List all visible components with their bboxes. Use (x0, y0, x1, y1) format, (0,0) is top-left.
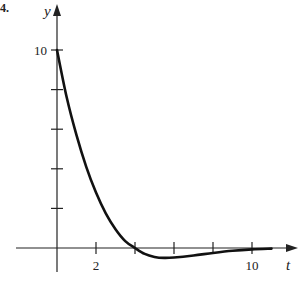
y-tick-labels: 10 (34, 43, 47, 58)
x-axis-label: t (286, 257, 291, 273)
problem-marker: 4. (0, 1, 9, 15)
x-axis-arrow-icon (286, 244, 298, 252)
y-axis (53, 4, 61, 272)
chart: 4. 210 10 t y (0, 0, 308, 282)
y-axis-label: y (42, 3, 51, 19)
series-line (57, 50, 272, 258)
y-tick-label: 10 (34, 43, 47, 58)
x-tick-label: 2 (93, 258, 100, 273)
x-tick-label: 10 (246, 258, 259, 273)
x-tick-labels: 210 (93, 258, 259, 273)
y-axis-arrow-icon (53, 4, 61, 16)
